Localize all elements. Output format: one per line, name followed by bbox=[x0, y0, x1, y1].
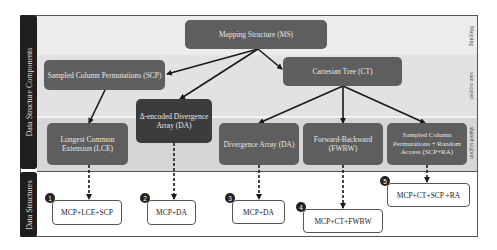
components-sidebar: Data Structure Components bbox=[20, 15, 37, 169]
fwbw-label: Forward-Backward (FWBW) bbox=[306, 135, 380, 153]
badge-3-number: 3 bbox=[228, 195, 232, 202]
da-node: Divergence Array (DA) bbox=[219, 123, 299, 165]
structure-5: MCP+CT+SCP +RA bbox=[387, 183, 470, 207]
badge-4: 4 bbox=[296, 202, 306, 212]
ct-label: Cartesian Tree (CT) bbox=[313, 67, 373, 76]
structure-3-label: MCP+DA bbox=[243, 208, 274, 217]
scp-ra-label: Sampled Column Permutations + Random Acc… bbox=[390, 131, 464, 157]
badge-5: 5 bbox=[380, 176, 390, 186]
ms-label: Mapping Structure (MS) bbox=[219, 30, 293, 39]
badge-2-number: 2 bbox=[143, 195, 147, 202]
badge-2: 2 bbox=[140, 193, 150, 203]
structure-1: MCP+LCE+SCP bbox=[52, 200, 122, 225]
mapping-structure-node: Mapping Structure (MS) bbox=[185, 20, 327, 49]
mapping-label: Mapping bbox=[466, 17, 477, 55]
start-support-label: start support bbox=[466, 56, 477, 116]
da-label: Divergence Array (DA) bbox=[223, 140, 294, 149]
delta-da-node: Δ-encoded Divergence Array (DA) bbox=[136, 99, 212, 143]
shared-support-label: shared support bbox=[466, 118, 477, 168]
scp-node: Sampled Column Permutations (SCP) bbox=[44, 60, 165, 90]
structures-sidebar: Data Structures bbox=[20, 172, 37, 237]
badge-3: 3 bbox=[225, 193, 235, 203]
fwbw-node: Forward-Backward (FWBW) bbox=[303, 123, 383, 165]
mapping-label-text: Mapping bbox=[469, 26, 475, 46]
badge-1-number: 1 bbox=[48, 195, 52, 202]
structure-3: MCP+DA bbox=[232, 200, 285, 224]
lce-label: Longest Common Extension (LCE) bbox=[50, 135, 125, 153]
badge-4-number: 4 bbox=[299, 204, 303, 211]
cartesian-tree-node: Cartesian Tree (CT) bbox=[283, 57, 402, 86]
scp-ra-node: Sampled Column Permutations + Random Acc… bbox=[387, 123, 467, 165]
lce-node: Longest Common Extension (LCE) bbox=[47, 123, 128, 165]
badge-5-number: 5 bbox=[383, 178, 387, 185]
delta-da-label: Δ-encoded Divergence Array (DA) bbox=[139, 112, 209, 130]
structure-4: MCP+CT+FWBW bbox=[303, 209, 383, 233]
start-support-label-text: start support bbox=[469, 72, 475, 99]
structure-2-label: MCP+DA bbox=[156, 208, 187, 217]
components-sidebar-label: Data Structure Components bbox=[24, 48, 33, 137]
structure-4-label: MCP+CT+FWBW bbox=[314, 217, 371, 226]
scp-label: Sampled Column Permutations (SCP) bbox=[48, 71, 162, 80]
structure-1-label: MCP+LCE+SCP bbox=[61, 208, 113, 217]
structure-2: MCP+DA bbox=[147, 200, 196, 225]
structures-sidebar-label: Data Structures bbox=[24, 180, 33, 230]
structure-5-label: MCP+CT+SCP +RA bbox=[397, 191, 460, 200]
badge-1: 1 bbox=[45, 193, 55, 203]
shared-support-label-text: shared support bbox=[469, 127, 475, 159]
